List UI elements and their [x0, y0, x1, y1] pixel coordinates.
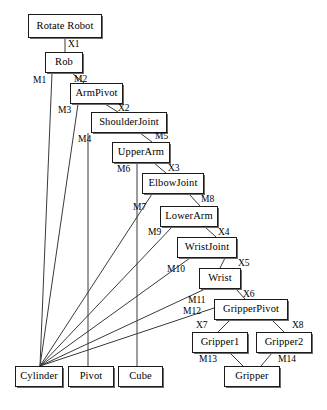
- edge-label-x6: X6: [243, 290, 255, 300]
- node-gripper2[interactable]: Gripper2: [256, 332, 312, 353]
- node-label-gripper: Gripper: [235, 371, 268, 382]
- edge-m14: [261, 353, 272, 366]
- edge-x2: [105, 104, 118, 112]
- node-gripper[interactable]: Gripper: [224, 366, 280, 387]
- edge-label-x8: X8: [292, 321, 304, 331]
- edge-m5: [140, 133, 152, 142]
- node-shoulderjoint[interactable]: ShoulderJoint: [91, 112, 167, 133]
- edge-label-m3: M3: [58, 106, 71, 116]
- node-label-wristjoint: WristJoint: [185, 242, 229, 253]
- edge-label-x7: X7: [196, 321, 208, 331]
- edge-label-m8: M8: [201, 195, 214, 205]
- node-label-cube: Cube: [129, 371, 152, 382]
- edge-x5: [220, 258, 225, 268]
- edge-x8: [272, 320, 284, 332]
- edge-label-m1: M1: [33, 76, 46, 86]
- edge-label-m11: M11: [188, 296, 206, 306]
- node-label-pivot: Pivot: [80, 371, 103, 382]
- edge-x4: [205, 227, 216, 237]
- node-label-gripper1: Gripper1: [201, 337, 240, 348]
- node-label-elbowjoint: ElbowJoint: [149, 178, 198, 189]
- node-rotate-robot[interactable]: Rotate Robot: [28, 14, 102, 38]
- node-elbowjoint[interactable]: ElbowJoint: [142, 173, 204, 194]
- edge-label-m12: M12: [183, 307, 201, 317]
- node-armpivot[interactable]: ArmPivot: [70, 83, 123, 104]
- node-cylinder[interactable]: Cylinder: [15, 366, 63, 387]
- node-label-armpivot: ArmPivot: [75, 88, 117, 99]
- edge-label-m7: M7: [133, 203, 146, 213]
- edge-label-m14: M14: [278, 355, 296, 365]
- node-cube[interactable]: Cube: [118, 366, 163, 387]
- node-label-lowerarm: LowerArm: [165, 211, 212, 222]
- edge-label-m10: M10: [167, 265, 185, 275]
- edge-x3: [154, 163, 166, 173]
- node-lowerarm[interactable]: LowerArm: [160, 206, 218, 227]
- edge-label-m5: M5: [155, 132, 168, 142]
- node-label-rob: Rob: [55, 57, 73, 68]
- edge-label-m6: M6: [117, 165, 130, 175]
- node-gripperpivot[interactable]: GripperPivot: [214, 299, 288, 320]
- node-label-shoulderjoint: ShoulderJoint: [99, 117, 159, 128]
- node-rob[interactable]: Rob: [45, 52, 83, 73]
- node-wrist[interactable]: Wrist: [199, 268, 241, 289]
- edge-m12: [40, 308, 214, 366]
- edge-label-x3: X3: [168, 164, 180, 174]
- edge-label-x5: X5: [238, 259, 250, 269]
- node-label-upperarm: UpperArm: [118, 147, 164, 158]
- node-label-rotate-robot: Rotate Robot: [37, 21, 94, 32]
- edge-label-x1: X1: [68, 40, 80, 50]
- node-label-gripper2: Gripper2: [265, 337, 304, 348]
- edge-label-m9: M9: [148, 228, 161, 238]
- node-label-gripperpivot: GripperPivot: [223, 304, 279, 315]
- node-pivot[interactable]: Pivot: [68, 366, 114, 387]
- node-wristjoint[interactable]: WristJoint: [177, 237, 237, 258]
- edge-label-x4: X4: [218, 228, 230, 238]
- node-label-cylinder: Cylinder: [20, 371, 58, 382]
- edge-m8: [189, 194, 200, 206]
- edge-m13: [230, 353, 243, 366]
- edge-label-m13: M13: [199, 355, 217, 365]
- edge-label-x2: X2: [118, 104, 130, 114]
- edge-x7: [218, 320, 230, 332]
- diagram-canvas: X1M1M2X2M3X3M4M5M6M7M8X4M9X5M10X6M11M12X…: [0, 0, 327, 410]
- edge-m9: [40, 227, 172, 366]
- node-gripper1[interactable]: Gripper1: [192, 332, 248, 353]
- edge-label-m4: M4: [78, 135, 91, 145]
- edge-label-m2: M2: [74, 75, 87, 85]
- node-label-wrist: Wrist: [208, 273, 231, 284]
- node-upperarm[interactable]: UpperArm: [112, 142, 170, 163]
